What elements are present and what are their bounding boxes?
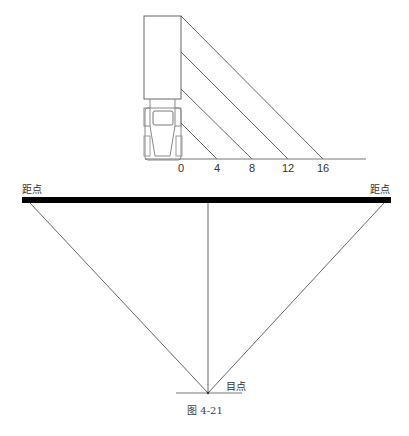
tick-12: 12 xyxy=(282,162,294,174)
figure-caption: 图 4-21 xyxy=(187,405,223,416)
right-distance-point-label: 距点 xyxy=(370,184,390,195)
tick-8: 8 xyxy=(249,162,255,174)
trailer-body xyxy=(144,16,181,99)
diagram-canvas: 0 4 8 12 16 距点 距点 目点 图 4-21 xyxy=(0,0,409,436)
tick-0: 0 xyxy=(178,162,184,174)
projection-lines xyxy=(181,16,323,159)
picture-plane-bar xyxy=(22,197,391,203)
ground-tick-labels: 0 4 8 12 16 xyxy=(178,162,329,174)
sight-lines xyxy=(30,203,384,393)
tick-4: 4 xyxy=(214,162,220,174)
tractor-cab xyxy=(144,108,182,160)
left-distance-point-label: 距点 xyxy=(22,184,42,195)
truck-top-view xyxy=(144,16,182,160)
eye-point-label: 目点 xyxy=(226,381,246,392)
tick-16: 16 xyxy=(317,162,329,174)
eye-point xyxy=(207,392,209,394)
